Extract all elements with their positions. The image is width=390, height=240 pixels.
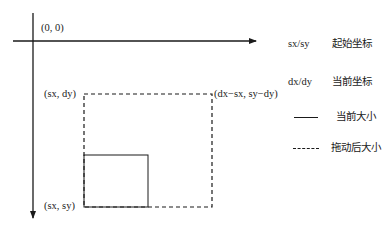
legend-desc: 当前大小 <box>336 112 376 123</box>
legend-key: sx/sy <box>288 39 322 50</box>
point-label-top-left: (sx, dy) <box>44 89 76 100</box>
legend-desc: 拖动后大小 <box>331 143 381 154</box>
legend-desc: 起始坐标 <box>332 39 372 50</box>
solid-line-swatch <box>294 117 318 118</box>
point-label-bottom-left: (sx, sy) <box>44 201 75 212</box>
legend-item-start-coords: sx/sy 起始坐标 <box>288 39 372 50</box>
legend-item-dragged-size: 拖动后大小 <box>293 143 381 154</box>
legend-desc: 当前坐标 <box>332 77 372 88</box>
legend-item-current-coords: dx/dy 当前坐标 <box>288 77 372 88</box>
legend-key: dx/dy <box>288 77 322 88</box>
origin-label: (0, 0) <box>41 23 64 34</box>
current-size-rect <box>84 155 148 207</box>
legend-item-current-size: 当前大小 <box>294 112 376 123</box>
dashed-line-swatch <box>293 148 319 149</box>
point-label-top-right: (dx−sx, sy−dy) <box>214 89 278 100</box>
